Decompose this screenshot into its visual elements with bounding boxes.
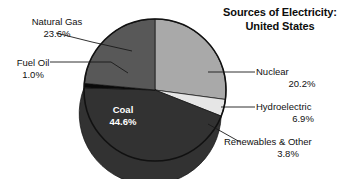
slice-label-fuel-oil-name: Fuel Oil bbox=[4, 57, 62, 69]
slice-label-hydroelectric-value: 6.9% bbox=[256, 113, 350, 125]
slice-label-hydroelectric: Hydroelectric 6.9% bbox=[256, 101, 350, 124]
page-title: Sources of Electricity: United States bbox=[210, 6, 350, 33]
title-line-2: United States bbox=[210, 20, 350, 34]
slice-label-fuel-oil-value: 1.0% bbox=[4, 69, 62, 81]
slice-label-hydroelectric-name: Hydroelectric bbox=[256, 101, 350, 113]
slice-label-nuclear-value: 20.2% bbox=[256, 78, 348, 90]
slice-label-coal-value: 44.6% bbox=[92, 116, 154, 128]
slice-label-renewables: Renewables & Other 3.8% bbox=[224, 136, 352, 159]
slice-label-nuclear: Nuclear 20.2% bbox=[256, 66, 348, 89]
slice-label-nuclear-name: Nuclear bbox=[256, 66, 348, 78]
slice-label-fuel-oil: Fuel Oil 1.0% bbox=[4, 57, 62, 80]
title-line-1: Sources of Electricity: bbox=[210, 6, 350, 20]
slice-label-coal: Coal 44.6% bbox=[92, 104, 154, 127]
slice-label-coal-name: Coal bbox=[92, 104, 154, 116]
slice-label-renewables-name: Renewables & Other bbox=[224, 136, 352, 148]
slice-label-natural-gas: Natural Gas 23.6% bbox=[14, 16, 100, 39]
pie-chart-figure: Sources of Electricity: United States Na… bbox=[0, 0, 353, 179]
slice-label-natural-gas-name: Natural Gas bbox=[14, 16, 100, 28]
slice-label-natural-gas-value: 23.6% bbox=[14, 28, 100, 40]
slice-label-renewables-value: 3.8% bbox=[224, 148, 352, 160]
